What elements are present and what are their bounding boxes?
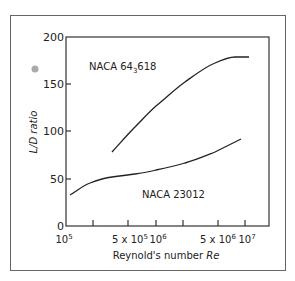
- y-tick-label: 100: [43, 125, 64, 138]
- x-tick-label: 107: [238, 233, 255, 245]
- line-naca-23012: [70, 139, 241, 195]
- x-tick-label: 5 x 105: [112, 233, 148, 245]
- series-label-naca-23012: NACA 23012: [142, 189, 205, 200]
- y-axis-label: L/D ratio: [28, 111, 39, 154]
- y-tick-label: 150: [43, 78, 64, 91]
- x-axis-label: Reynold's number Re: [113, 250, 220, 261]
- x-tick-label: 5 x 106: [200, 233, 236, 245]
- x-tick-label: 106: [149, 233, 167, 245]
- chart: 200 150 100 50 0 L/D ratio 105 5 x 105 1…: [0, 0, 295, 281]
- x-tick-label: 105: [55, 233, 72, 245]
- series-label-naca-64-618: NACA 643618: [89, 61, 156, 75]
- y-ticks: [66, 84, 71, 179]
- y-tick-label: 0: [57, 220, 64, 233]
- marker-dot: [32, 66, 39, 73]
- y-tick-label: 50: [50, 173, 64, 186]
- x-ticks: [93, 220, 245, 226]
- y-tick-label: 200: [43, 31, 64, 44]
